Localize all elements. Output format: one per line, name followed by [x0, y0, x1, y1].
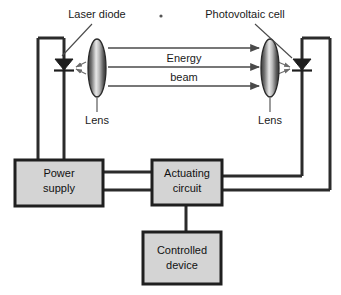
laser-diode-symbol — [54, 59, 86, 74]
stray-dot-artifact — [159, 14, 162, 17]
label-photovoltaic-cell: Photovoltaic cell — [205, 8, 285, 20]
label-beam: beam — [170, 71, 198, 83]
lens-right-icon — [261, 39, 279, 97]
label-energy: Energy — [167, 52, 202, 64]
label-laser-diode: Laser diode — [68, 8, 126, 20]
photodiode-symbol — [278, 59, 312, 74]
box-power-supply-line1: Power — [43, 167, 75, 179]
box-actuating-circuit-line2: circuit — [173, 182, 202, 194]
box-power-supply-line2: supply — [43, 182, 75, 194]
lens-left-icon — [88, 39, 106, 97]
box-controlled-device[interactable]: Controlled device — [143, 232, 221, 284]
diagram-canvas: Laser diode Photovoltaic cell Energy bea… — [0, 0, 341, 295]
label-lens-left: Lens — [85, 114, 109, 126]
box-power-supply[interactable]: Power supply — [15, 160, 103, 206]
laser-power-beaming-diagram: Laser diode Photovoltaic cell Energy bea… — [0, 0, 341, 295]
box-actuating-circuit-line1: Actuating — [164, 167, 210, 179]
left-wire-loop — [38, 38, 64, 160]
label-lens-right: Lens — [258, 114, 282, 126]
box-actuating-circuit[interactable]: Actuating circuit — [152, 160, 222, 205]
box-controlled-device-line1: Controlled — [157, 244, 207, 256]
box-controlled-device-line2: device — [166, 259, 198, 271]
